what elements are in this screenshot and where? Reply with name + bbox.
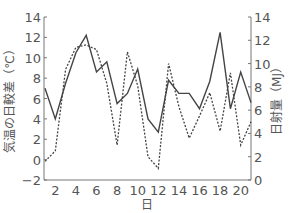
series-solar-radiation-line bbox=[45, 45, 251, 168]
left-y-tick-label: 4 bbox=[33, 112, 41, 127]
series-temperature-range-line bbox=[45, 32, 251, 132]
left-y-tick-label: 10 bbox=[24, 51, 41, 66]
left-y-tick-label: 8 bbox=[33, 71, 41, 86]
x-axis-label: 日 bbox=[141, 198, 153, 212]
x-tick-label: 4 bbox=[72, 183, 80, 198]
right-y-tick-label: 0 bbox=[254, 173, 262, 188]
left-y-tick-label: 6 bbox=[33, 92, 41, 107]
right-y-tick-label: 10 bbox=[254, 57, 271, 72]
plot-area bbox=[45, 32, 251, 168]
right-y-axis-label: 日射量（MJ） bbox=[269, 61, 284, 135]
left-y-tick-label: −2 bbox=[22, 173, 41, 188]
x-tick-label: 12 bbox=[150, 183, 167, 198]
x-tick-label: 10 bbox=[129, 183, 146, 198]
dual-axis-line-chart: −202468101214024681012142468101214161820… bbox=[0, 0, 294, 213]
left-y-tick-label: 0 bbox=[33, 153, 41, 168]
x-tick-label: 8 bbox=[113, 183, 121, 198]
x-tick-label: 18 bbox=[212, 183, 229, 198]
left-y-tick-label: 14 bbox=[24, 10, 41, 25]
x-tick-label: 2 bbox=[51, 183, 59, 198]
left-y-tick-label: 12 bbox=[24, 30, 41, 45]
left-y-axis-label: 気温の日較差（℃） bbox=[2, 43, 17, 152]
x-tick-label: 16 bbox=[191, 183, 208, 198]
right-y-tick-label: 8 bbox=[254, 80, 262, 95]
x-tick-label: 20 bbox=[232, 183, 249, 198]
right-y-tick-label: 14 bbox=[254, 10, 271, 25]
left-y-tick-label: 2 bbox=[33, 132, 41, 147]
x-tick-label: 6 bbox=[92, 183, 100, 198]
right-y-tick-label: 12 bbox=[254, 33, 271, 48]
right-y-tick-label: 4 bbox=[254, 126, 262, 141]
right-y-tick-label: 2 bbox=[254, 150, 262, 165]
right-y-tick-label: 6 bbox=[254, 103, 262, 118]
x-tick-label: 14 bbox=[171, 183, 188, 198]
